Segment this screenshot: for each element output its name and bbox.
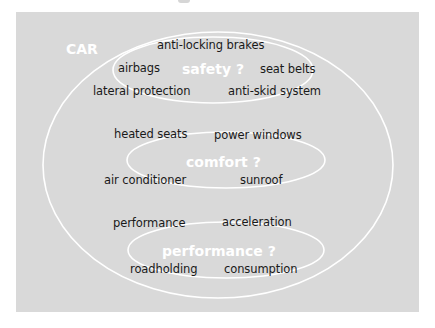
- feature-consumption: consumption: [224, 264, 297, 276]
- feature-performance: performance: [113, 218, 186, 230]
- feature-roadholding: roadholding: [130, 264, 197, 276]
- feature-airbags: airbags: [118, 63, 160, 75]
- feature-anti-locking-brakes: anti-locking brakes: [157, 40, 264, 52]
- feature-air-conditioner: air conditioner: [104, 175, 186, 187]
- feature-power-windows: power windows: [214, 130, 302, 142]
- feature-lateral-protection: lateral protection: [93, 86, 190, 98]
- feature-acceleration: acceleration: [222, 217, 292, 229]
- root-label-car: CAR: [66, 42, 98, 56]
- feature-heated-seats: heated seats: [114, 129, 187, 141]
- feature-anti-skid-system: anti-skid system: [228, 86, 321, 98]
- category-comfort: comfort ?: [186, 155, 261, 169]
- feature-seat-belts: seat belts: [260, 64, 315, 76]
- category-performance: performance ?: [162, 244, 276, 258]
- feature-sunroof: sunroof: [240, 175, 282, 187]
- category-safety: safety ?: [182, 62, 244, 76]
